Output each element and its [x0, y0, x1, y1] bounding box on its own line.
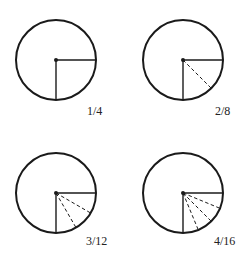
fraction-label: 4/16 — [214, 234, 235, 248]
dashed-subdivision-line — [56, 193, 91, 213]
dashed-subdivision-line — [183, 60, 211, 88]
fraction-label: 1/4 — [87, 104, 102, 118]
fraction-circle-two-eighths: 2/8 — [143, 20, 230, 118]
fraction-circle-four-sixteenths: 4/16 — [143, 153, 235, 248]
fraction-circle-one-quarter: 1/4 — [16, 20, 102, 118]
center-dot — [54, 191, 58, 195]
center-dot — [54, 58, 58, 62]
fraction-circle-three-twelfths: 3/12 — [16, 153, 107, 248]
center-dot — [181, 191, 185, 195]
fraction-label: 3/12 — [86, 234, 107, 248]
dashed-subdivision-line — [56, 193, 76, 228]
fraction-diagram: 1/42/83/124/16 — [0, 0, 247, 257]
dashed-subdivision-line — [183, 193, 211, 221]
fraction-label: 2/8 — [215, 104, 230, 118]
center-dot — [181, 58, 185, 62]
